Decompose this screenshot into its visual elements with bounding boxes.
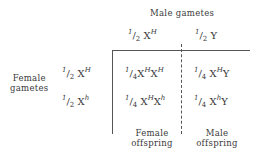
- cell-female-XHXH: 1/4XHXH: [125, 66, 164, 81]
- female-gamete-xH: 1/2 XH: [62, 66, 91, 81]
- female-gamete-xh: 1/2 Xh: [62, 94, 89, 109]
- cell-male-XHY: 1/4 XHY: [194, 66, 229, 81]
- grid-left-line: [112, 50, 113, 134]
- male-gamete-xh: 1/2 XH: [128, 28, 157, 43]
- cell-female-XHXh: 1/4 XHXh: [125, 94, 165, 109]
- female-gametes-label: Female gametes: [10, 73, 49, 93]
- female-offspring-label: Female offspring: [127, 128, 177, 148]
- male-gamete-y: 1/2 Y: [195, 28, 217, 43]
- sex-divider-dashed-line: [181, 44, 182, 134]
- male-gametes-label: Male gametes: [150, 8, 214, 18]
- cell-male-XhY: 1/4 XhY: [194, 94, 228, 109]
- male-offspring-label: Male offspring: [192, 128, 242, 148]
